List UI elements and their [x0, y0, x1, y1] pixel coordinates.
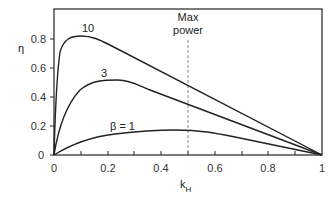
y-tick-0.8: 0.8	[31, 33, 46, 45]
max-power-label-line1: Max	[178, 11, 199, 23]
x-tick-0.4: 0.4	[153, 162, 168, 174]
curve-label-beta-1: β = 1	[110, 120, 135, 132]
y-tick-0.2: 0.2	[31, 120, 46, 132]
max-power-label-line2: power	[173, 24, 203, 36]
x-tick-1: 1	[319, 162, 325, 174]
y-tick-labels: 0 0.2 0.4 0.6 0.8	[31, 33, 46, 161]
y-axis-label: η	[18, 42, 24, 54]
x-tick-0: 0	[51, 162, 57, 174]
y-tick-0.4: 0.4	[31, 91, 46, 103]
curve-label-10: 10	[82, 22, 94, 34]
x-tick-0.2: 0.2	[100, 162, 115, 174]
x-tick-0.8: 0.8	[260, 162, 275, 174]
x-tick-0.6: 0.6	[207, 162, 222, 174]
y-tick-0: 0	[38, 149, 44, 161]
curve-label-3: 3	[101, 67, 107, 79]
y-tick-0.6: 0.6	[31, 62, 46, 74]
chart: 0 0.2 0.4 0.6 0.8 η 0 0.2 0.4 0.6 0.8 1 …	[0, 0, 335, 201]
x-axis-label: kH	[180, 178, 192, 194]
x-tick-labels: 0 0.2 0.4 0.6 0.8 1	[51, 162, 325, 174]
